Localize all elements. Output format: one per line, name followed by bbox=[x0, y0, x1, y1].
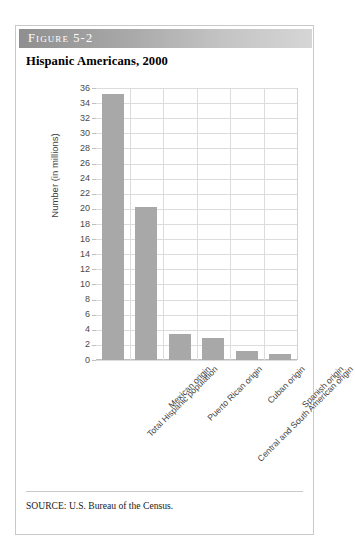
y-tick-label: 6 bbox=[16, 310, 90, 319]
source-divider bbox=[26, 491, 303, 492]
y-tick-label: 24 bbox=[16, 174, 90, 183]
bar bbox=[236, 351, 258, 360]
y-tick-mark bbox=[92, 148, 96, 149]
y-tick-label: 16 bbox=[16, 235, 90, 244]
bar bbox=[202, 338, 224, 360]
y-tick-label: 28 bbox=[16, 144, 90, 153]
y-tick-label: 12 bbox=[16, 265, 90, 274]
y-tick-mark bbox=[92, 269, 96, 270]
chart-title: Hispanic Americans, 2000 bbox=[26, 54, 168, 69]
y-tick-label: 0 bbox=[16, 356, 90, 365]
y-tick-label: 26 bbox=[16, 159, 90, 168]
y-tick-label: 10 bbox=[16, 280, 90, 289]
y-tick-mark bbox=[92, 315, 96, 316]
x-tick-label: Cuban origin bbox=[265, 364, 307, 406]
y-tick-label: 32 bbox=[16, 114, 90, 123]
y-tick-mark bbox=[92, 300, 96, 301]
y-tick-label: 34 bbox=[16, 99, 90, 108]
bar bbox=[102, 94, 124, 360]
y-tick-mark bbox=[92, 209, 96, 210]
gridline-vertical bbox=[130, 88, 131, 360]
y-tick-label: 8 bbox=[16, 295, 90, 304]
y-tick-label: 2 bbox=[16, 340, 90, 349]
y-tick-mark bbox=[92, 103, 96, 104]
gridline-horizontal bbox=[96, 360, 297, 361]
gridline-vertical bbox=[264, 88, 265, 360]
y-tick-mark bbox=[92, 360, 96, 361]
x-tick-label: Central and South American origin bbox=[256, 364, 355, 464]
chart-plot: Number (in millions) 0246810121416182022… bbox=[16, 78, 313, 478]
y-tick-label: 4 bbox=[16, 325, 90, 334]
y-tick-mark bbox=[92, 133, 96, 134]
y-tick-mark bbox=[92, 118, 96, 119]
figure-number-label: Figure 5-2 bbox=[28, 31, 93, 46]
y-tick-mark bbox=[92, 239, 96, 240]
gridline-vertical bbox=[230, 88, 231, 360]
gridline-vertical bbox=[163, 88, 164, 360]
x-tick-label: Mexican origin bbox=[166, 364, 212, 410]
y-tick-label: 22 bbox=[16, 189, 90, 198]
y-tick-mark bbox=[92, 194, 96, 195]
figure-header-band: Figure 5-2 bbox=[19, 29, 312, 48]
y-tick-label: 18 bbox=[16, 220, 90, 229]
figure-card: Figure 5-2 Hispanic Americans, 2000 Numb… bbox=[15, 25, 314, 535]
y-tick-mark bbox=[92, 179, 96, 180]
y-tick-mark bbox=[92, 284, 96, 285]
bar bbox=[135, 207, 157, 360]
plot-area bbox=[96, 88, 297, 360]
gridline-vertical bbox=[197, 88, 198, 360]
y-tick-label: 36 bbox=[16, 84, 90, 93]
y-tick-mark bbox=[92, 330, 96, 331]
source-note: SOURCE: U.S. Bureau of the Census. bbox=[26, 500, 173, 511]
y-tick-label: 30 bbox=[16, 129, 90, 138]
y-tick-label: 20 bbox=[16, 204, 90, 213]
y-tick-mark bbox=[92, 88, 96, 89]
y-tick-mark bbox=[92, 254, 96, 255]
plot-right-border bbox=[297, 88, 298, 360]
y-tick-mark bbox=[92, 345, 96, 346]
y-tick-mark bbox=[92, 164, 96, 165]
bar bbox=[169, 334, 191, 360]
y-tick-mark bbox=[92, 224, 96, 225]
bar bbox=[269, 354, 291, 360]
y-tick-label: 14 bbox=[16, 250, 90, 259]
